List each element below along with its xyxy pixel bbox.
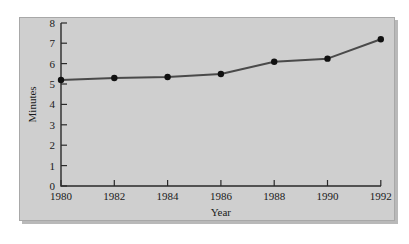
data-point-1982 xyxy=(111,75,117,81)
y-tick-label-6: 6 xyxy=(50,58,56,70)
x-tick-label-1980: 1980 xyxy=(50,190,73,202)
series-markers xyxy=(58,36,384,83)
x-tick-label-1988: 1988 xyxy=(263,190,286,202)
data-point-1992 xyxy=(378,36,384,42)
plot-area: 0 1 2 3 4 5 6 7 8 xyxy=(20,18,396,222)
x-tick-label-1982: 1982 xyxy=(103,190,125,202)
y-axis-title: Minutes xyxy=(26,86,38,122)
data-point-1980 xyxy=(58,77,64,83)
y-tick-labels: 0 1 2 3 4 5 6 7 8 xyxy=(50,18,56,192)
series-minutes xyxy=(58,36,384,83)
data-point-1988 xyxy=(271,59,277,65)
x-tick-label-1986: 1986 xyxy=(210,190,233,202)
data-point-1986 xyxy=(218,71,224,77)
line-chart: 0 1 2 3 4 5 6 7 8 xyxy=(20,18,396,222)
x-tick-labels: 1980 1982 1984 1986 1988 1990 1992 xyxy=(50,190,392,202)
y-tick-label-4: 4 xyxy=(50,98,56,110)
chart-page: 0 1 2 3 4 5 6 7 8 xyxy=(0,0,409,244)
y-tick-marks xyxy=(61,23,67,186)
x-tick-label-1990: 1990 xyxy=(317,190,340,202)
y-tick-label-1: 1 xyxy=(50,160,56,172)
y-tick-label-2: 2 xyxy=(50,139,56,151)
data-point-1984 xyxy=(164,74,170,80)
y-tick-label-8: 8 xyxy=(50,18,56,29)
x-tick-label-1992: 1992 xyxy=(370,190,392,202)
x-tick-label-1984: 1984 xyxy=(157,190,180,202)
chart-panel: 0 1 2 3 4 5 6 7 8 xyxy=(19,17,395,221)
axes xyxy=(61,23,381,186)
y-tick-label-7: 7 xyxy=(50,37,56,49)
y-tick-label-5: 5 xyxy=(50,78,56,90)
x-tick-marks xyxy=(61,180,381,186)
data-point-1990 xyxy=(324,55,330,61)
x-axis-title: Year xyxy=(211,206,232,218)
y-tick-label-3: 3 xyxy=(50,119,56,131)
axis-lines xyxy=(61,23,381,186)
